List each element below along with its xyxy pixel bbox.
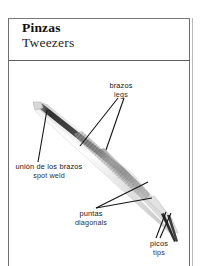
entry-title-english: Tweezers — [22, 35, 74, 50]
callout-legs: brazos legs — [92, 82, 150, 99]
callout-tips-english: tips — [138, 249, 180, 258]
header-divider — [9, 60, 190, 61]
callout-diagonals-english: diagonals — [62, 219, 120, 228]
callout-legs-english: legs — [92, 91, 150, 100]
callout-spot-weld-english: spot weld — [6, 172, 92, 181]
callout-spot-weld: unión de los brazos spot weld — [6, 163, 92, 180]
callout-tips: picos tips — [138, 240, 180, 257]
entry-title-spanish: Pinzas — [22, 20, 61, 35]
callout-diagonals: puntas diagonals — [62, 210, 120, 227]
entry-header: Pinzas Tweezers — [10, 19, 188, 60]
dictionary-entry-page: Pinzas Tweezers — [0, 0, 203, 266]
frame-right-shadow — [192, 18, 193, 266]
